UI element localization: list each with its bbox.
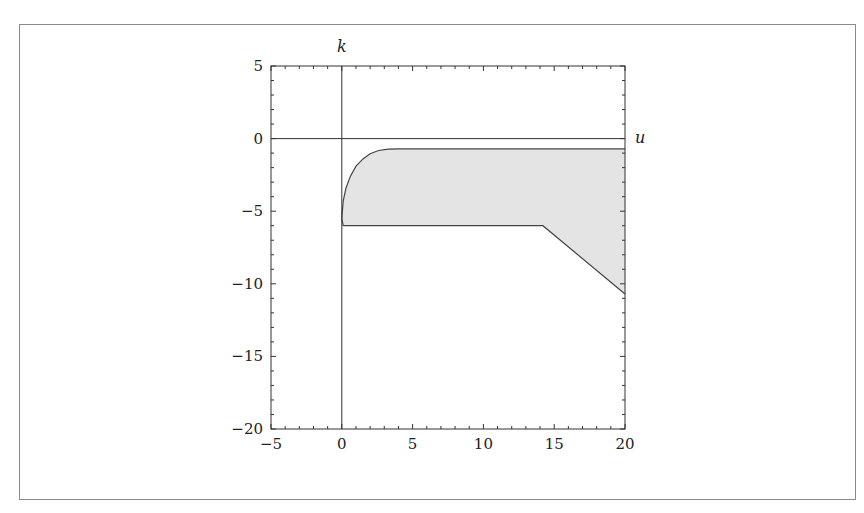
shaded-region	[342, 149, 625, 294]
x-tick-label: −5	[260, 435, 282, 453]
y-tick-label: −20	[231, 420, 263, 438]
x-tick-label: 10	[474, 435, 493, 453]
y-tick-label: −5	[241, 202, 263, 220]
x-tick-label: 0	[337, 435, 347, 453]
x-tick-label: 20	[615, 435, 634, 453]
y-axis-label: k	[337, 37, 347, 56]
y-tick-label: 0	[253, 130, 263, 148]
x-axis-label: u	[635, 128, 645, 147]
region-layer	[342, 149, 625, 294]
x-tick-label: 15	[545, 435, 564, 453]
y-tick-label: −15	[231, 347, 263, 365]
x-tick-label: 5	[408, 435, 418, 453]
y-tick-label: −10	[231, 275, 263, 293]
y-tick-label: 5	[253, 57, 263, 75]
chart: u k −50510152050−5−10−15−20	[0, 0, 864, 513]
